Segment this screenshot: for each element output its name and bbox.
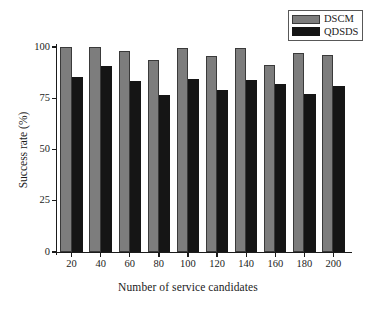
x-tick-mark	[187, 253, 188, 257]
x-tick-label: 160	[267, 258, 283, 269]
x-tick-mark	[304, 253, 305, 257]
x-tick-mark	[275, 253, 276, 257]
chart-legend: DSCM QDSDS	[288, 10, 363, 41]
x-tick-mark	[216, 253, 217, 257]
bar-dscm-160	[264, 65, 275, 252]
bar-dscm-80	[148, 60, 159, 252]
bar-qdsds-180	[304, 94, 315, 252]
bar-qdsds-200	[333, 86, 344, 252]
bar-qdsds-60	[130, 81, 141, 252]
x-tick-mark	[333, 253, 334, 257]
bar-dscm-40	[89, 47, 100, 252]
y-tick-mark	[52, 98, 56, 99]
x-tick-mark	[100, 253, 101, 257]
bar-dscm-120	[206, 56, 217, 252]
x-tick-mark	[246, 253, 247, 257]
y-tick-mark	[52, 149, 56, 150]
legend-item: QDSDS	[292, 27, 358, 38]
y-tick-mark	[52, 251, 56, 252]
bar-qdsds-160	[275, 84, 286, 252]
x-axis-title: Number of service candidates	[0, 281, 376, 293]
x-tick-label: 80	[154, 258, 165, 269]
bar-dscm-200	[322, 55, 333, 252]
x-tick-label: 180	[296, 258, 312, 269]
x-tick-label: 200	[326, 258, 342, 269]
legend-item-label: QDSDS	[324, 27, 358, 38]
bar-dscm-180	[293, 53, 304, 252]
x-tick-label: 120	[209, 258, 225, 269]
bar-dscm-20	[60, 47, 71, 252]
plot-area	[57, 47, 348, 252]
bar-dscm-60	[119, 51, 130, 252]
x-tick-label: 140	[238, 258, 254, 269]
bar-qdsds-100	[188, 79, 199, 252]
bar-dscm-100	[177, 48, 188, 252]
bar-qdsds-120	[217, 90, 228, 252]
x-tick-mark	[71, 253, 72, 257]
bar-qdsds-20	[72, 77, 83, 252]
y-tick-label: 0	[45, 247, 50, 258]
bar-chart-figure: 0255075100 20406080100120140160180200 Nu…	[0, 0, 376, 312]
x-tick-label: 100	[180, 258, 196, 269]
bar-qdsds-40	[101, 66, 112, 252]
y-axis-title: Success rate (%)	[17, 80, 29, 220]
gray-swatch-icon	[292, 15, 320, 24]
x-tick-label: 20	[66, 258, 77, 269]
y-tick-label: 25	[40, 195, 51, 206]
bar-qdsds-140	[246, 80, 257, 252]
bar-dscm-140	[235, 48, 246, 252]
y-tick-label: 50	[40, 144, 51, 155]
y-tick-mark	[52, 200, 56, 201]
y-tick-label: 100	[34, 42, 50, 53]
y-tick-mark	[52, 46, 56, 47]
legend-item-label: DSCM	[324, 14, 354, 25]
x-tick-label: 60	[125, 258, 136, 269]
x-tick-mark	[158, 253, 159, 257]
x-tick-label: 40	[95, 258, 106, 269]
bar-qdsds-80	[159, 95, 170, 252]
black-swatch-icon	[292, 27, 320, 36]
legend-item: DSCM	[292, 14, 358, 25]
x-tick-mark	[129, 253, 130, 257]
y-tick-label: 75	[40, 93, 51, 104]
